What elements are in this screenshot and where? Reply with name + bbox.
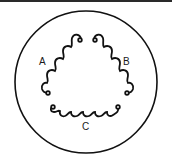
- coil-a: [42, 35, 82, 95]
- coil-b-label: B: [123, 56, 130, 67]
- coil-a-label: A: [39, 56, 46, 67]
- coil-c-label: C: [82, 121, 89, 132]
- winding-diagram: A B C: [0, 0, 172, 159]
- coil-c: [51, 105, 120, 116]
